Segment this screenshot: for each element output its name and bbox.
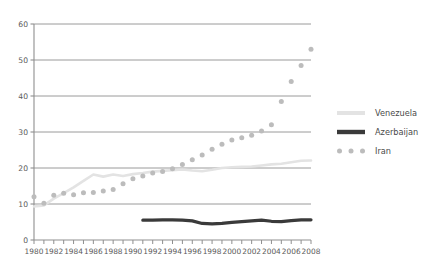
data-point-iran [91,190,96,195]
legend-item-label: Azerbaijan [375,127,418,137]
legend-dot-icon [337,149,342,154]
series-line-azerbaijan [143,220,311,224]
data-point-iran [101,189,106,194]
x-tick-label: 1982 [44,247,63,256]
y-tick-label: 50 [18,56,28,65]
data-point-iran [200,153,205,158]
data-point-iran [41,201,46,206]
legend-item-venezuela[interactable]: Venezuela [337,108,417,118]
data-point-iran [170,166,175,171]
x-axis-ticks [34,240,311,244]
y-tick-label: 0 [23,236,28,245]
x-axis-tick-labels: 1980198219841986198819901992199419961998… [25,247,321,256]
data-point-iran [61,191,66,196]
data-point-iran [140,173,145,178]
data-point-iran [239,135,244,140]
x-tick-label: 1996 [183,247,202,256]
x-tick-label: 2002 [242,247,261,256]
data-point-iran [259,128,264,133]
x-tick-label: 1988 [104,247,123,256]
data-point-iran [51,193,56,198]
legend-item-iran[interactable]: Iran [337,146,391,156]
data-point-iran [269,122,274,127]
data-point-iran [190,157,195,162]
x-tick-label: 1998 [203,247,222,256]
data-point-iran [219,142,224,147]
legend-item-azerbaijan[interactable]: Azerbaijan [337,127,418,137]
legend-item-label: Venezuela [375,108,417,118]
x-tick-label: 1986 [84,247,103,256]
x-tick-label: 1984 [64,247,83,256]
x-tick-label: 2000 [222,247,241,256]
x-tick-label: 1994 [163,247,182,256]
x-tick-label: 1980 [25,247,44,256]
data-point-iran [180,162,185,167]
data-point-iran [150,171,155,176]
data-point-iran [32,194,37,199]
chart-legend: VenezuelaAzerbaijanIran [337,108,418,156]
x-tick-label: 2006 [282,247,301,256]
data-point-iran [229,137,234,142]
data-point-iran [299,63,304,68]
data-point-iran [111,187,116,192]
y-axis-tick-labels: 0102030405060 [18,20,28,245]
y-tick-label: 30 [18,128,28,137]
data-point-iran [279,99,284,104]
data-point-iran [160,169,165,174]
series-layer [32,47,314,224]
chart-container: 0102030405060 19801982198419861988199019… [0,0,433,268]
y-tick-label: 40 [18,92,28,101]
chart-svg: 0102030405060 19801982198419861988199019… [0,0,433,268]
data-point-iran [309,47,314,52]
legend-dot-icon [349,149,354,154]
x-tick-label: 1992 [143,247,162,256]
data-point-iran [71,192,76,197]
y-tick-label: 10 [18,200,28,209]
gridlines [34,24,311,204]
data-point-iran [289,79,294,84]
x-tick-label: 2008 [302,247,321,256]
data-point-iran [130,176,135,181]
legend-item-label: Iran [375,146,391,156]
y-tick-label: 20 [18,164,28,173]
data-point-iran [249,133,254,138]
data-point-iran [121,181,126,186]
legend-dot-icon [360,149,365,154]
data-point-iran [81,190,86,195]
data-point-iran [210,147,215,152]
x-tick-label: 2004 [262,247,281,256]
x-tick-label: 1990 [124,247,143,256]
y-tick-label: 60 [18,20,28,29]
